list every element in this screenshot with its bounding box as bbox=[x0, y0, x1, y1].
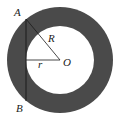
label-B: B bbox=[16, 102, 23, 114]
annulus-diagram: A B O R r bbox=[0, 0, 122, 122]
label-R: R bbox=[47, 32, 55, 44]
label-O: O bbox=[63, 56, 71, 68]
label-r: r bbox=[38, 58, 43, 70]
label-A: A bbox=[13, 6, 21, 18]
